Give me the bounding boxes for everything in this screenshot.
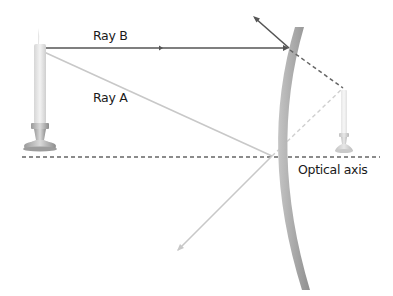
ray-a-reflected — [178, 156, 272, 250]
ray-diagram — [0, 0, 393, 296]
optical-axis-label: Optical axis — [298, 162, 368, 177]
ray-b-reflected — [255, 18, 289, 48]
object-candle — [23, 28, 57, 152]
ray-b-virtual-extension — [290, 50, 343, 88]
concave-mirror — [278, 27, 310, 290]
ray-b-arrowhead-mid-icon — [159, 46, 163, 51]
image-candle — [335, 90, 353, 153]
ray-a-incident — [44, 52, 272, 156]
ray-b-label: Ray B — [93, 28, 128, 43]
ray-a-label: Ray A — [93, 90, 128, 105]
